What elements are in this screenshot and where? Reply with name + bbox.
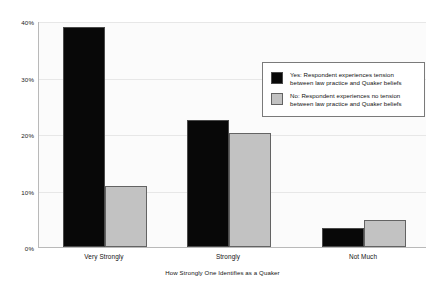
legend-label-no: No: Respondent experiences no tension be… [290, 92, 402, 109]
x-axis-tick-very-strongly: Very Strongly [84, 253, 123, 260]
bar-yes-strongly[interactable] [187, 120, 229, 247]
plot-area [38, 22, 426, 248]
x-axis-title: How Strongly One Identifies as a Quaker [0, 269, 445, 276]
legend-label-no-line2: between law practice and Quaker beliefs [290, 100, 402, 107]
bar-chart: 40% 30% 20% 10% 0% Very Strongly Strongl… [0, 0, 445, 286]
legend-label-yes: Yes: Respondent experiences tension betw… [290, 71, 402, 88]
legend-label-yes-line1: Yes: Respondent experiences tension [290, 71, 394, 78]
bar-group-not-much [322, 22, 406, 247]
bar-no-not-much[interactable] [364, 220, 406, 247]
bar-no-strongly[interactable] [229, 133, 271, 247]
y-axis-tick-20: 20% [0, 132, 34, 139]
bar-no-very-strongly[interactable] [105, 186, 147, 247]
bar-yes-not-much[interactable] [322, 228, 364, 247]
chart-legend: Yes: Respondent experiences tension betw… [262, 62, 425, 117]
y-axis-tick-10: 10% [0, 188, 34, 195]
legend-item-yes[interactable]: Yes: Respondent experiences tension betw… [271, 71, 402, 88]
bar-group-very-strongly [63, 22, 147, 247]
legend-item-no[interactable]: No: Respondent experiences no tension be… [271, 92, 402, 109]
legend-label-yes-line2: between law practice and Quaker beliefs [290, 79, 402, 86]
bar-group-strongly [187, 22, 271, 247]
x-axis-tick-strongly: Strongly [216, 253, 240, 260]
legend-swatch-no-icon [271, 93, 283, 105]
x-axis-tick-not-much: Not Much [349, 253, 377, 260]
legend-label-no-line1: No: Respondent experiences no tension [290, 92, 400, 99]
y-axis-tick-40: 40% [0, 19, 34, 26]
bar-yes-very-strongly[interactable] [63, 27, 105, 247]
y-axis-tick-30: 30% [0, 75, 34, 82]
y-axis-tick-0: 0% [0, 245, 34, 252]
legend-swatch-yes-icon [271, 72, 283, 84]
